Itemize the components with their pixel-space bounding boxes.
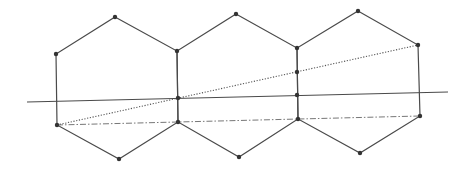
vertex-point (418, 114, 422, 118)
solid-transversal-line (27, 92, 448, 102)
hexagon-1 (56, 17, 178, 159)
vertex-point (176, 96, 180, 100)
vertex-point (295, 70, 299, 74)
vertex-point (356, 9, 360, 13)
vertex-point (358, 151, 362, 155)
vertex-point (295, 93, 299, 97)
vertex-point (416, 43, 420, 47)
vertex-point (296, 117, 300, 121)
vertex-point (237, 155, 241, 159)
vertex-point (176, 120, 180, 124)
dashdot-base-line (57, 116, 420, 125)
vertex-point (55, 123, 59, 127)
vertex-point (234, 12, 238, 16)
hexagon-3 (297, 11, 420, 153)
vertex-point (113, 15, 117, 19)
hexagon-2 (177, 14, 298, 157)
vertex-point (54, 52, 58, 56)
vertex-point (175, 49, 179, 53)
dotted-diagonal-line (57, 45, 418, 125)
lines-group (27, 45, 448, 125)
hexagon-diagram (0, 0, 471, 171)
vertex-point (295, 46, 299, 50)
vertex-point (117, 157, 121, 161)
